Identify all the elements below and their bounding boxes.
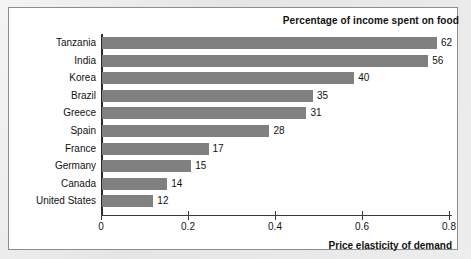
bar-row: Brazil35 (101, 89, 449, 107)
bar-value-label: 15 (195, 160, 206, 171)
chart-panel: Percentage of income spent on food 00.20… (8, 7, 458, 250)
category-label: Canada (0, 178, 96, 189)
bar-value-label: 56 (432, 55, 443, 66)
bar-row: Tanzania62 (101, 36, 449, 54)
bar-value-label: 12 (157, 195, 168, 206)
bar-value-label: 28 (273, 125, 284, 136)
bar[interactable] (102, 37, 437, 49)
chart-title: Percentage of income spent on food (259, 15, 459, 26)
x-axis-tick-label: 0.2 (168, 221, 208, 232)
bar-value-label: 35 (317, 90, 328, 101)
bar[interactable] (102, 160, 191, 172)
bar-row: Spain28 (101, 124, 449, 142)
category-label: France (0, 143, 96, 154)
bar-value-label: 40 (358, 72, 369, 83)
category-label: Korea (0, 72, 96, 83)
x-axis-tick (449, 211, 450, 220)
bar[interactable] (102, 143, 209, 155)
bar[interactable] (102, 195, 153, 207)
category-label: Germany (0, 160, 96, 171)
bar[interactable] (102, 72, 354, 84)
x-axis-line (101, 215, 452, 216)
category-label: Tanzania (0, 37, 96, 48)
category-label: India (0, 55, 96, 66)
bar-row: United States12 (101, 194, 449, 212)
category-label: United States (0, 195, 96, 206)
bar-row: France17 (101, 142, 449, 160)
bar-value-label: 17 (213, 143, 224, 154)
bar[interactable] (102, 125, 269, 137)
bar-row: Greece31 (101, 106, 449, 124)
x-axis-tick-label: 0.8 (429, 221, 469, 232)
category-label: Spain (0, 125, 96, 136)
bar-row: Germany15 (101, 159, 449, 177)
x-axis-tick-label: 0.4 (255, 221, 295, 232)
x-axis-title: Price elasticity of demand (209, 240, 452, 251)
category-label: Brazil (0, 90, 96, 101)
bar-value-label: 14 (171, 178, 182, 189)
category-label: Greece (0, 107, 96, 118)
chart-screenshot: Percentage of income spent on food 00.20… (0, 0, 471, 259)
bar[interactable] (102, 90, 313, 102)
bar-row: Canada14 (101, 177, 449, 195)
bar[interactable] (102, 178, 167, 190)
bar-value-label: 31 (310, 107, 321, 118)
x-axis-tick-label: 0.6 (342, 221, 382, 232)
bar[interactable] (102, 55, 428, 67)
x-axis-tick-label: 0 (81, 221, 121, 232)
bar-row: India56 (101, 54, 449, 72)
bar[interactable] (102, 107, 306, 119)
bar-row: Korea40 (101, 71, 449, 89)
plot-area: Tanzania62India56Korea40Brazil35Greece31… (101, 36, 449, 214)
bar-value-label: 62 (441, 37, 452, 48)
